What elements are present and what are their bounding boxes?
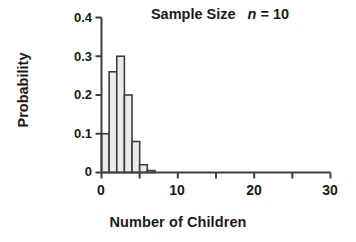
- bars-group: [102, 56, 155, 172]
- bar-5: [140, 165, 148, 173]
- bar-3: [124, 95, 132, 173]
- bar-2: [117, 56, 125, 172]
- bar-1: [109, 72, 117, 173]
- bar-0: [102, 134, 110, 173]
- plot-area: [0, 0, 356, 242]
- bar-4: [132, 142, 140, 173]
- probability-histogram-chart: Sample Size n = 10 Probability Number of…: [0, 0, 356, 242]
